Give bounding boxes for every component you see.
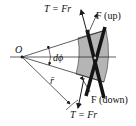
torque-bottom-arrow: [78, 78, 84, 108]
origin-point: [21, 56, 24, 59]
radius-label: r̄: [50, 75, 55, 86]
origin-label: O: [15, 44, 22, 55]
torque-top-label: T = Fr: [44, 3, 71, 14]
torque-bottom-label: T = Fr: [70, 109, 97, 120]
angle-label: dϕ: [53, 52, 63, 63]
force-down-label: F (down): [91, 94, 128, 106]
force-up-label: F (up): [96, 10, 121, 22]
sector-force-diagram: T = Fr F (up) O dϕ r̄ F (down) T = Fr: [0, 0, 136, 126]
center-point: [94, 57, 97, 60]
torque-top-arrow: [81, 10, 88, 36]
